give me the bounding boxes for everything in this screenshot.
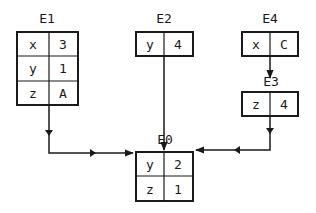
binding-value: 2 xyxy=(174,157,182,172)
binding-value: 1 xyxy=(174,182,182,197)
binding-var: z xyxy=(29,86,37,101)
binding-var: y xyxy=(146,37,154,52)
binding-value: A xyxy=(59,86,67,101)
diagram-canvas: E1 x 3 y 1 z A E2 y 4 E4 x C E3 z 4 E0 xyxy=(0,0,316,213)
binding-var: x xyxy=(29,37,37,52)
frame-e1: E1 x 3 y 1 z A xyxy=(17,11,78,105)
binding-value: 4 xyxy=(174,37,182,52)
arrowhead-icon xyxy=(90,149,96,157)
frame-label: E3 xyxy=(263,74,279,89)
binding-value: 1 xyxy=(59,61,67,76)
binding-var: z xyxy=(252,97,260,112)
frame-label: E1 xyxy=(39,11,55,26)
binding-var: y xyxy=(146,157,154,172)
frame-label: E4 xyxy=(262,11,278,26)
edge-e3-to-e0 xyxy=(196,116,274,154)
binding-var: y xyxy=(29,61,37,76)
binding-value: C xyxy=(280,37,288,52)
frame-e3: E3 z 4 xyxy=(242,74,298,116)
binding-value: 4 xyxy=(280,97,288,112)
arrowhead-icon xyxy=(266,128,274,134)
frame-label: E0 xyxy=(157,132,173,147)
frame-e4: E4 x C xyxy=(242,11,298,56)
binding-var: z xyxy=(146,182,154,197)
arrowhead-icon xyxy=(234,146,240,154)
frame-e2: E2 y 4 xyxy=(136,11,193,56)
arrowhead-icon xyxy=(45,130,53,136)
edge-e1-to-e0 xyxy=(45,105,133,157)
binding-var: x xyxy=(252,37,260,52)
frame-label: E2 xyxy=(156,11,172,26)
binding-value: 3 xyxy=(59,37,67,52)
frame-e0: E0 y 2 z 1 xyxy=(136,132,193,201)
